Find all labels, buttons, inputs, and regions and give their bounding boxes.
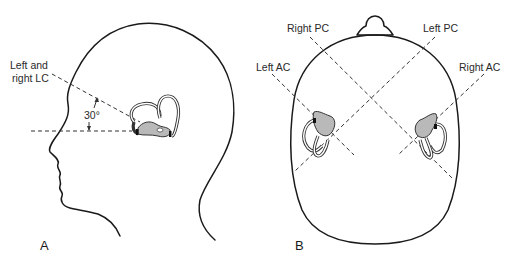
lc-label-line1: Left and (10, 59, 48, 71)
angle-label: 30° (84, 109, 100, 121)
right-ac-label: Right AC (459, 61, 501, 73)
left-ac-label: Left AC (256, 61, 291, 73)
labyrinth-left-top (304, 111, 335, 156)
panel-b-letter: B (295, 238, 304, 253)
semicircular-canals-figure: Left and right LC 30° A (0, 0, 511, 258)
panel-b: Right PC Left PC Left AC Right AC B (256, 16, 501, 253)
nose-outline (357, 16, 393, 35)
right-pc-plane-line (310, 37, 454, 180)
right-pc-label: Right PC (287, 22, 329, 34)
right-ac-plane-line (398, 74, 484, 155)
lc-label-line2: right LC (12, 72, 49, 84)
labyrinth-lateral (131, 96, 178, 137)
panel-a: Left and right LC 30° A (10, 23, 234, 253)
labyrinth-right-top (415, 114, 445, 158)
left-pc-label: Left PC (423, 22, 458, 34)
panel-a-letter: A (40, 238, 49, 253)
